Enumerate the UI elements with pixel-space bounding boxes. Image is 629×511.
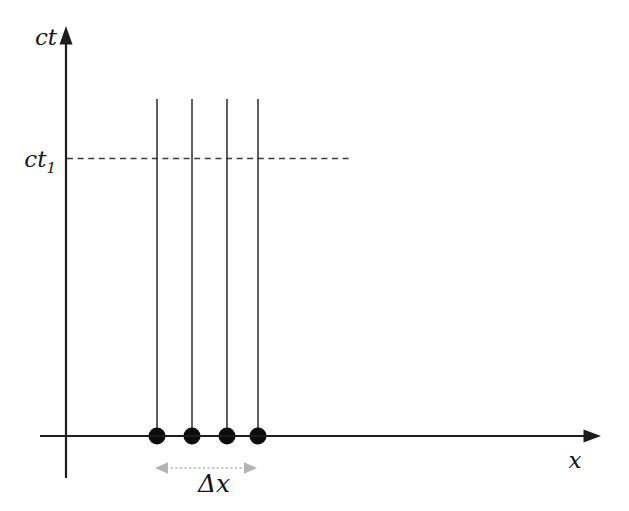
y-axis-arrow-head	[60, 26, 73, 45]
interval-arrow-right-head	[244, 462, 257, 474]
time-slice-label: ct1	[24, 146, 56, 177]
x-axis-arrow-head	[584, 430, 602, 443]
interval-arrow-left-head	[155, 462, 168, 474]
time-slice-label-subscript: 1	[46, 159, 56, 177]
interval-label: Δx	[197, 469, 230, 498]
time-slice-label-base: ct	[24, 146, 47, 172]
x-axis-label: x	[569, 447, 582, 473]
spacetime-diagram-figure: ct x ct1 Δx	[0, 0, 629, 511]
y-axis-label: ct	[35, 24, 58, 50]
worldlines-group	[149, 99, 267, 445]
spacetime-diagram-svg: ct x ct1 Δx	[0, 0, 629, 511]
